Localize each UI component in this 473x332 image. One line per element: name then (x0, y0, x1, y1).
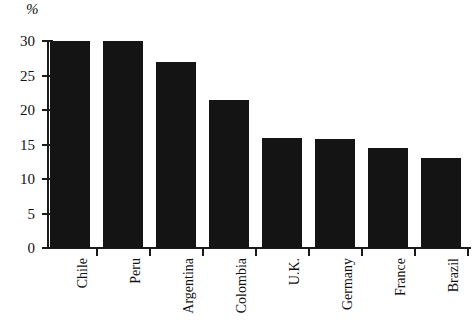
category-label-text: Argentina (182, 258, 196, 314)
category-label-u-k: U.K. (288, 258, 302, 285)
category-label-text: U.K. (288, 258, 302, 285)
bar-germany (315, 139, 355, 248)
bar-chile (50, 41, 90, 248)
bar-chart-figure: % 302520151050 ChilePeruArgentinaColombi… (0, 0, 473, 332)
bar-france (368, 148, 408, 248)
category-label-argentina: Argentina (182, 258, 196, 314)
category-label-text: Germany (341, 258, 355, 310)
category-label-text: Peru (129, 258, 143, 284)
category-label-colombia: Colombia (235, 258, 249, 313)
bar-colombia (209, 100, 249, 248)
category-label-text: Colombia (235, 258, 249, 313)
category-label-text: Brazil (447, 258, 461, 292)
bar-peru (103, 41, 143, 248)
category-label-text: Chile (76, 258, 90, 288)
category-label-france: France (394, 258, 408, 296)
category-label-chile: Chile (76, 258, 90, 288)
category-label-brazil: Brazil (447, 258, 461, 292)
category-label-germany: Germany (341, 258, 355, 310)
bar-brazil (421, 158, 461, 248)
bar-u-k (262, 138, 302, 248)
category-label-text: France (394, 258, 408, 296)
category-label-peru: Peru (129, 258, 143, 284)
bar-argentina (156, 62, 196, 248)
